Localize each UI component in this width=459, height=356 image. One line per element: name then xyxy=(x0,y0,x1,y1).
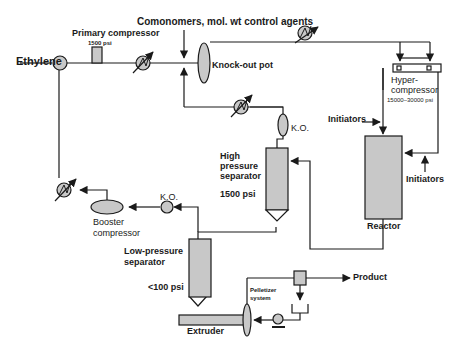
hp-separator-pressure: 1500 psi xyxy=(220,190,256,200)
comonomers-label: Comonomers, mol. wt control agents xyxy=(137,16,313,27)
hp-separator-cone-icon xyxy=(266,210,288,221)
pelletizer-die-icon xyxy=(243,304,251,336)
hyper-compressor-cylinder-1 xyxy=(397,66,401,70)
primary-compressor-icon xyxy=(92,47,102,63)
lp-separator-label-2: separator xyxy=(124,258,165,268)
heat-exchanger-2-icon xyxy=(295,26,318,43)
heat-exchanger-4-icon xyxy=(55,179,76,201)
water-pump-icon xyxy=(273,314,283,324)
primary-compressor-pressure: 1500 psi xyxy=(88,40,112,47)
knockout-pot-label: Knock-out pot xyxy=(212,61,273,71)
ko-high-icon xyxy=(278,114,288,136)
extruder-icon xyxy=(179,315,247,325)
heat-exchanger-1-icon xyxy=(133,52,153,73)
lp-separator-icon xyxy=(189,239,211,297)
booster-compressor-icon xyxy=(91,200,123,214)
hyper-compressor-label-2: compressor xyxy=(391,86,438,96)
initiators-top-label: Initiators xyxy=(328,115,366,125)
knockout-pot-icon xyxy=(198,43,210,83)
booster-compressor-label-1: Booster xyxy=(93,218,124,228)
hp-recycle-to-ko xyxy=(250,107,283,118)
pelletizer-box-icon xyxy=(294,271,306,285)
booster-to-exchanger-arrow xyxy=(80,190,107,200)
heat-exchanger-3-icon xyxy=(231,95,252,117)
ethylene-label: Ethylene xyxy=(16,55,62,67)
reactor-icon xyxy=(365,136,402,219)
ko-high-label: K.O. xyxy=(291,124,309,134)
hyper-compressor-cylinder-2 xyxy=(427,66,431,70)
hp-separator-label-3: separator xyxy=(220,172,261,182)
lp-separator-pressure: <100 psi xyxy=(148,283,184,293)
booster-compressor-label-2: compressor xyxy=(93,229,140,239)
water-tank xyxy=(292,304,308,313)
pelletizer-label-2: system xyxy=(250,295,271,302)
primary-compressor-label: Primary compressor xyxy=(72,29,160,39)
product-label: Product xyxy=(353,273,387,283)
hyper-compressor-pressure: 15000–30000 psi xyxy=(387,97,433,104)
extruder-label: Extruder xyxy=(187,327,224,337)
hp-separator-icon xyxy=(266,148,288,210)
initiators-side-label: Initiators xyxy=(406,175,444,185)
ko-low-label: K.O. xyxy=(160,193,178,203)
lp-to-ko-arrow xyxy=(174,207,198,232)
lp-separator-label-1: Low-pressure xyxy=(124,247,183,257)
tank-to-pump-line xyxy=(283,313,300,320)
pelletizer-label-1: Pelletizer xyxy=(250,287,276,294)
reactor-label: Reactor xyxy=(367,222,401,232)
